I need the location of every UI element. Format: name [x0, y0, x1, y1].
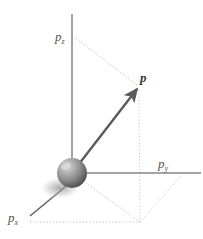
diagram-background — [0, 0, 203, 239]
origin-sphere — [57, 158, 87, 188]
vector-diagram: pz py px p — [0, 0, 203, 239]
vector-label: p — [139, 70, 147, 85]
